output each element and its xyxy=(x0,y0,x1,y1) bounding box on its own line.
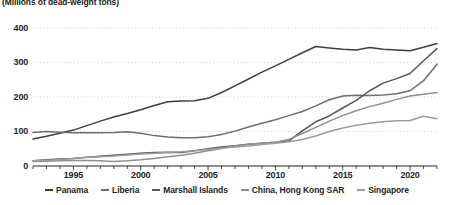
legend-label: Marshall Islands xyxy=(163,185,228,195)
legend-swatch-icon xyxy=(241,189,249,191)
y-tick-label: 300 xyxy=(2,57,28,67)
series-line-liberia xyxy=(33,64,437,138)
series-line-china-hong-kong-sar xyxy=(33,92,437,161)
series-line-panama xyxy=(33,43,437,139)
y-tick-label: 0 xyxy=(2,161,28,171)
legend-label: Singapore xyxy=(368,185,409,195)
legend-swatch-icon xyxy=(357,189,365,191)
y-tick-label: 400 xyxy=(2,23,28,33)
chart-svg xyxy=(33,21,437,166)
legend-label: China, Hong Kong SAR xyxy=(252,185,344,195)
legend-label: Panama xyxy=(56,185,88,195)
legend-label: Liberia xyxy=(112,185,139,195)
legend-swatch-icon xyxy=(152,189,160,191)
plot-area xyxy=(33,21,437,166)
y-tick-label: 200 xyxy=(2,92,28,102)
x-tick-label: 2010 xyxy=(266,170,285,180)
x-tick-label: 2005 xyxy=(198,170,217,180)
legend-swatch-icon xyxy=(101,189,109,191)
legend-item[interactable]: Panama xyxy=(45,185,88,195)
chart-legend: PanamaLiberiaMarshall IslandsChina, Hong… xyxy=(0,185,454,195)
legend-item[interactable]: Marshall Islands xyxy=(152,185,228,195)
legend-swatch-icon xyxy=(45,189,53,191)
x-tick-label: 2000 xyxy=(131,170,150,180)
legend-item[interactable]: Liberia xyxy=(101,185,139,195)
legend-item[interactable]: Singapore xyxy=(357,185,409,195)
x-tick-label: 2015 xyxy=(333,170,352,180)
legend-item[interactable]: China, Hong Kong SAR xyxy=(241,185,344,195)
chart-container: (Millions of dead-weight tons) 010020030… xyxy=(0,0,454,205)
x-tick-label: 2020 xyxy=(400,170,419,180)
chart-subtitle: (Millions of dead-weight tons) xyxy=(2,0,119,7)
x-tick-label: 1995 xyxy=(64,170,83,180)
y-tick-label: 100 xyxy=(2,126,28,136)
